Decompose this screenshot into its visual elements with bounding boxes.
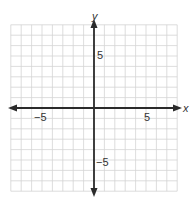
y-tick-label-neg5: −5: [96, 157, 109, 168]
y-axis-label: y: [92, 11, 98, 22]
x-axis-label: x: [183, 103, 189, 114]
x-tick-label-5: 5: [144, 112, 150, 123]
coordinate-plane: [0, 0, 196, 202]
y-axis-down-arrow-icon: [91, 188, 98, 197]
x-axis-left-arrow-icon: [8, 105, 17, 112]
x-tick-label-neg5: −5: [34, 112, 47, 123]
y-tick-label-5: 5: [97, 50, 103, 61]
